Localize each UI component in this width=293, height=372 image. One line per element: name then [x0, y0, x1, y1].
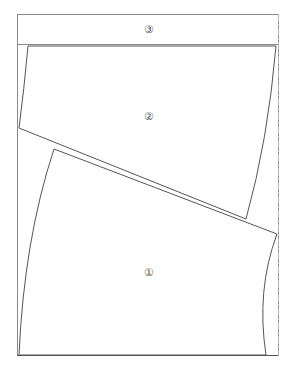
- layout-diagram: [0, 0, 293, 372]
- piece-1-label: ①: [144, 266, 154, 279]
- piece-2-outline: [19, 46, 276, 219]
- piece-3-label: ③: [144, 23, 154, 36]
- piece-2-label: ②: [144, 110, 154, 123]
